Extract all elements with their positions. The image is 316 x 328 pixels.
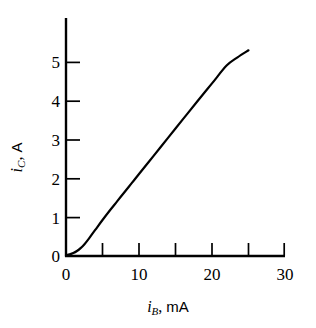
chart-canvas bbox=[0, 0, 316, 328]
x-tick-label-10: 10 bbox=[126, 266, 152, 283]
x-axis-unit: mA bbox=[166, 298, 189, 315]
figure-transistor-transfer-characteristic: 5 4 3 2 1 0 0 10 20 30 iC, A iB, mA bbox=[0, 0, 316, 328]
y-axis-symbol: i bbox=[8, 168, 25, 172]
x-tick-label-20: 20 bbox=[199, 266, 225, 283]
y-tick-label-5: 5 bbox=[40, 54, 60, 71]
y-tick-label-0: 0 bbox=[40, 248, 60, 265]
y-axis-unit: A bbox=[8, 143, 25, 153]
y-tick-label-1: 1 bbox=[40, 210, 60, 227]
x-axis-title: iB, mA bbox=[118, 298, 218, 317]
y-axis-separator: , bbox=[8, 157, 25, 161]
y-tick-label-4: 4 bbox=[40, 93, 60, 110]
y-axis-subscript: C bbox=[15, 161, 27, 168]
axis-spines bbox=[65, 18, 285, 257]
x-tick-label-0: 0 bbox=[53, 266, 79, 283]
x-axis-separator: , bbox=[158, 298, 162, 315]
x-tick-label-30: 30 bbox=[272, 266, 298, 283]
y-axis-ticks bbox=[66, 62, 80, 217]
y-axis-title: iC, A bbox=[8, 125, 27, 191]
data-series-curve bbox=[66, 50, 249, 255]
y-tick-label-3: 3 bbox=[40, 132, 60, 149]
x-axis-ticks bbox=[103, 243, 285, 256]
y-tick-label-2: 2 bbox=[40, 171, 60, 188]
